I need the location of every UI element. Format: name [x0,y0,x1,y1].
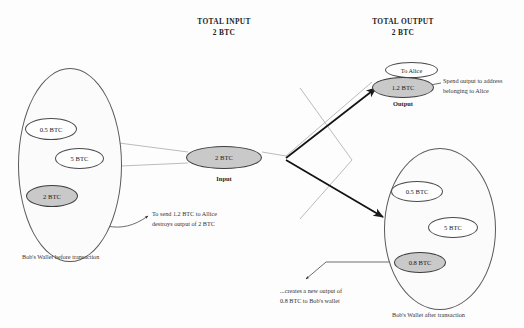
total-output-line1: TOTAL OUTPUT [328,17,478,28]
total-input-header: TOTAL INPUT 2 BTC [168,17,280,38]
note-change-line2: 0.8 BTC to Bob's wallet [280,296,384,306]
total-output-header: TOTAL OUTPUT 2 BTC [328,17,478,38]
diagram-canvas: TOTAL INPUT 2 BTC TOTAL OUTPUT 2 BTC 0.5… [0,0,524,328]
note-spend-line1: To send 1.2 BTC to Allice [152,209,256,219]
input-node-label: Input [186,175,262,182]
coin-after-0[interactable]: 0.5 BTC [391,181,443,202]
leader-change-note [306,262,400,279]
funnel-input-to-outputs [262,82,380,219]
wallet-before-caption: Bob's Wallet before transaction [22,253,99,260]
note-spend: To send 1.2 BTC to Allice destroys outpu… [152,209,256,228]
note-change-line1: ...creates a new output of [280,286,384,296]
coin-before-0[interactable]: 0.5 BTC [25,118,77,140]
note-alice: Spend output to address belonging to Ali… [443,76,524,95]
output-node-label: Output [372,100,434,107]
arrow-input-to-change-output [286,160,383,217]
total-input-line1: TOTAL INPUT [168,17,280,28]
wallet-after-caption: Bob's Wallet after transaction [392,311,465,318]
to-alice-bubble[interactable]: To Alice [385,62,438,78]
input-node-ellipse[interactable]: 2 BTC [186,146,262,169]
output-node-ellipse[interactable]: 1.2 BTC [372,77,434,98]
note-spend-line2: destroys output of 2 BTC [152,219,256,229]
arrow-input-to-alice-output [286,88,376,158]
total-input-line2: 2 BTC [168,28,280,39]
total-output-line2: 2 BTC [328,28,478,39]
coin-after-2[interactable]: 0.8 BTC [394,252,446,273]
note-change: ...creates a new output of 0.8 BTC to Bo… [280,286,384,305]
coin-before-2[interactable]: 2 BTC [26,185,78,207]
coin-after-1[interactable]: 5 BTC [428,217,478,238]
note-alice-line2: belonging to Alice [443,86,524,96]
funnel-wallet-to-input [119,143,188,166]
coin-before-1[interactable]: 5 BTC [55,148,104,169]
note-alice-line1: Spend output to address [443,76,524,86]
